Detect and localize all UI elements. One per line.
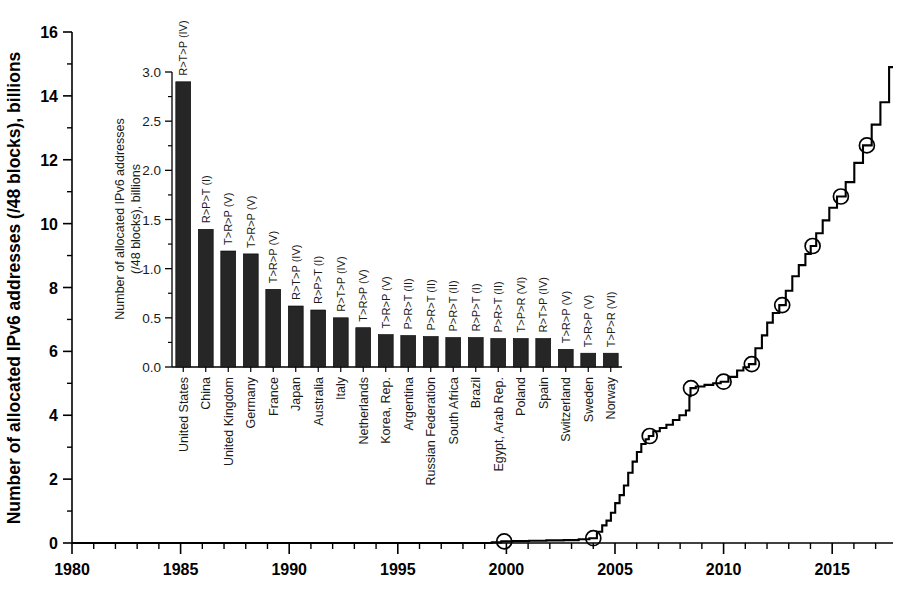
- main-series-line: [72, 67, 893, 543]
- inset-bar: [378, 335, 393, 367]
- main-y-tick-label: 12: [40, 152, 58, 169]
- inset-bar: [423, 337, 438, 368]
- inset-bar: [513, 339, 528, 368]
- inset-bar-annotation: P>R>T (II): [425, 279, 437, 330]
- main-x-tick-label: 1985: [163, 561, 199, 578]
- main-x-tick-label: 2005: [597, 561, 633, 578]
- inset-category-label: Netherlands: [357, 377, 371, 444]
- inset-y-tick-label: 2.0: [142, 163, 161, 178]
- inset-bar-annotation: R>P>T (I): [312, 256, 324, 304]
- inset-bar: [491, 339, 506, 368]
- inset-bar: [333, 318, 348, 367]
- inset-category-label: Australia: [312, 377, 326, 426]
- main-x-tick-label: 2015: [814, 561, 850, 578]
- inset-category-label: Korea, Rep.: [379, 377, 393, 444]
- inset-category-label: Switzerland: [559, 377, 573, 442]
- inset-category-label: Argentina: [402, 377, 416, 431]
- inset-category-label: United States: [177, 377, 191, 452]
- chart-canvas: Number of allocated IPv6 addresses (/48 …: [0, 0, 901, 596]
- inset-bar-annotation: T>P>R (VI): [605, 292, 617, 348]
- inset-bar-annotation: T>P>R (VI): [515, 277, 527, 333]
- inset-bar-annotation: P>R>T (II): [402, 278, 414, 329]
- inset-bar: [603, 353, 618, 367]
- main-y-tick-label: 16: [40, 24, 58, 41]
- inset-bar-annotation: R>T>P (IV): [335, 256, 347, 311]
- inset-bar: [581, 353, 596, 367]
- inset-bar-annotation: R>P>T (I): [200, 175, 212, 223]
- main-y-tick-label: 8: [49, 280, 58, 297]
- inset-bar: [356, 328, 371, 367]
- inset-bar-annotation: P>R>T (II): [492, 281, 504, 332]
- inset-bar-annotation: T>R>P (V): [357, 269, 369, 321]
- inset-bar-annotation: R>T>P (IV): [537, 277, 549, 332]
- inset-y-tick-label: 0.5: [142, 311, 161, 326]
- inset-bar: [468, 338, 483, 368]
- inset-bar-annotation: R>T>P (IV): [290, 245, 302, 300]
- inset-y-axis-title-line1: Number of allocated IPv6 addresses: [113, 118, 127, 320]
- inset-category-label: Egypt, Arab Rep.: [492, 377, 506, 472]
- main-x-tick-label: 1995: [380, 561, 416, 578]
- inset-bar-annotation: R>T>P (IV): [177, 20, 189, 75]
- inset-bar-annotation: T>R>P (V): [582, 295, 594, 347]
- inset-y-tick-label: 3.0: [142, 65, 161, 80]
- inset-category-label: Norway: [604, 376, 618, 419]
- inset-bar: [221, 251, 236, 367]
- main-y-axis-title: Number of allocated IPv6 addresses (/48 …: [4, 51, 24, 524]
- inset-category-label: France: [267, 377, 281, 416]
- inset-category-label: Poland: [514, 377, 528, 416]
- inset-bar: [288, 306, 303, 367]
- inset-category-label: China: [199, 377, 213, 410]
- inset-bar: [536, 339, 551, 368]
- inset-bar: [176, 82, 191, 367]
- inset-category-label: Brazil: [469, 377, 483, 408]
- ipv6-allocation-figure: Number of allocated IPv6 addresses (/48 …: [0, 0, 901, 596]
- inset-category-label: Japan: [289, 377, 303, 411]
- inset-y-tick-label: 1.5: [142, 213, 161, 228]
- inset-y-tick-label: 0.0: [142, 360, 161, 375]
- inset-bar: [243, 254, 258, 367]
- inset-bar-annotation: T>R>P (V): [245, 196, 257, 248]
- inset-category-label: Sweden: [582, 377, 596, 422]
- inset-y-tick-label: 1.0: [142, 262, 161, 277]
- inset-y-tick-label: 2.5: [142, 114, 161, 129]
- inset-bar: [558, 349, 573, 367]
- main-y-tick-label: 10: [40, 216, 58, 233]
- main-plot-area: 0246810121416198019851990199520002005201…: [40, 24, 893, 578]
- inset-bar: [446, 338, 461, 368]
- inset-bar-annotation: T>R>P (V): [222, 193, 234, 245]
- inset-bar-annotation: R>P>T (I): [470, 283, 482, 331]
- inset-bar: [198, 229, 213, 367]
- main-x-tick-label: 2010: [706, 561, 742, 578]
- main-y-tick-label: 4: [49, 407, 58, 424]
- inset-bar-annotation: T>R>P (V): [380, 276, 392, 328]
- inset-category-label: Germany: [244, 376, 258, 428]
- inset-category-label: United Kingdom: [222, 377, 236, 466]
- inset-category-label: Spain: [537, 377, 551, 409]
- inset-bar: [311, 310, 326, 367]
- main-y-tick-label: 14: [40, 88, 58, 105]
- inset-bar-annotation: T>R>P (V): [267, 231, 279, 283]
- inset-category-label: Russian Federation: [424, 377, 438, 485]
- inset-bar-annotation: T>R>P (V): [560, 291, 572, 343]
- main-x-tick-label: 1990: [271, 561, 307, 578]
- main-y-tick-label: 6: [49, 343, 58, 360]
- inset-category-label: Italy: [334, 376, 348, 400]
- inset-bar: [266, 289, 281, 367]
- inset-y-axis-title-line2: (/48 blocks), billions: [129, 164, 143, 274]
- main-x-tick-label: 1980: [54, 561, 90, 578]
- main-y-tick-label: 0: [49, 535, 58, 552]
- inset-bar: [401, 336, 416, 368]
- main-y-tick-label: 2: [49, 471, 58, 488]
- inset-plot-area: Number of allocated IPv6 addresses(/48 b…: [113, 20, 622, 485]
- inset-category-label: South Africa: [447, 377, 461, 444]
- main-x-tick-label: 2000: [489, 561, 525, 578]
- inset-bar-annotation: P>R>T (II): [447, 280, 459, 331]
